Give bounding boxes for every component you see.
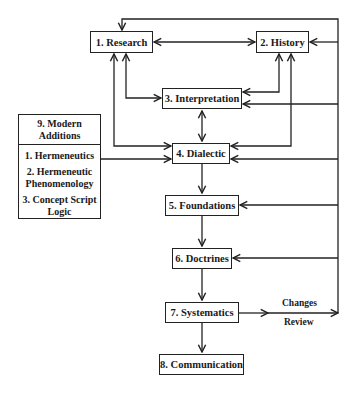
modern-addition-item: 3. Concept Script Logic [19, 194, 100, 218]
modern-additions-title-1: 9. Modern [19, 118, 100, 130]
node-dialectic: 4. Dialectic [172, 143, 230, 164]
node-label: 7. Systematics [171, 307, 234, 318]
node-label: 6. Doctrines [175, 253, 229, 264]
item-line: Logic [19, 206, 100, 218]
modern-additions-title-2: Additions [19, 130, 100, 142]
modern-additions-box: 9. Modern Additions 1. Hermeneutics 2. H… [18, 114, 101, 219]
edge-label-review: Review [284, 317, 314, 327]
item-line: Phenomenology [19, 178, 100, 190]
node-doctrines: 6. Doctrines [172, 248, 232, 269]
modern-addition-item: 2. Hermeneutic Phenomenology [19, 166, 100, 190]
item-line: 2. Hermeneutic [19, 166, 100, 178]
node-label: 5. Foundations [169, 200, 236, 211]
node-label: 4. Dialectic [176, 148, 226, 159]
node-systematics: 7. Systematics [165, 302, 239, 323]
modern-additions-header: 9. Modern Additions [19, 115, 100, 145]
node-label: 2. History [260, 37, 304, 48]
item-line: 3. Concept Script [19, 194, 100, 206]
item-line: 1. Hermeneutics [19, 150, 100, 162]
node-label: 1. Research [96, 37, 148, 48]
edge-label-changes: Changes [282, 298, 317, 308]
node-label: 8. Communication [160, 359, 243, 370]
modern-addition-item: 1. Hermeneutics [19, 150, 100, 162]
node-label: 3. Interpretation [165, 93, 239, 104]
node-communication: 8. Communication [159, 354, 244, 375]
node-interpretation: 3. Interpretation [162, 88, 242, 109]
node-research: 1. Research [90, 31, 153, 53]
node-foundations: 5. Foundations [165, 195, 239, 216]
node-history: 2. History [256, 31, 309, 53]
